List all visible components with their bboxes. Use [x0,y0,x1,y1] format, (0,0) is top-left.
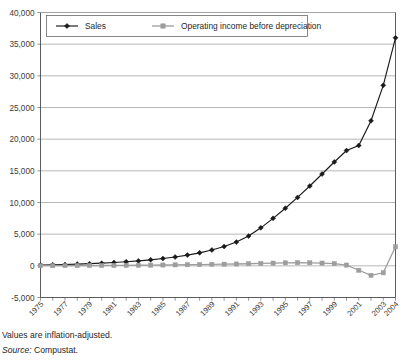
x-axis-tick-label: 2004 [382,300,400,318]
data-point-marker [344,263,348,267]
data-point-marker [51,264,55,268]
data-point-marker [222,262,226,266]
y-axis-tick-label: 25,000 [9,104,34,113]
data-point-marker [149,263,153,267]
data-point-marker [332,262,336,266]
data-point-marker [271,261,275,265]
chart-figure: 40,00035,00030,00025,00020,00015,00010,0… [0,0,417,360]
y-axis-ticks-group [37,13,40,298]
data-point-marker [124,263,128,267]
data-point-marker [112,263,116,267]
x-axis-tick-label: 1989 [198,300,216,318]
x-axis-tick-label: 1991 [223,300,241,318]
footnote-source-prefix: Source: [2,345,32,355]
data-point-marker [148,257,153,262]
legend-label: Operating income before depreciation [181,21,321,31]
legend-marker-sample [161,24,165,28]
y-axis-tick-label: 10,000 [9,199,34,208]
x-axis-tick-label: 2001 [345,300,363,318]
data-point-marker [393,245,397,249]
footnote-values: Values are inflation-adjusted. [2,330,112,341]
series-line-operating-income [41,247,396,275]
data-point-marker [136,263,140,267]
data-point-marker [369,118,374,123]
data-point-marker [234,262,238,266]
chart-legend: SalesOperating income before depreciatio… [47,16,322,37]
legend-label: Sales [85,21,106,31]
data-point-marker [210,262,214,266]
x-axis-tick-label: 1979 [76,300,94,318]
y-axis-tick-label: -5,000 [11,294,35,303]
y-axis-labels-group: 40,00035,00030,00025,00020,00015,00010,0… [9,9,34,303]
y-axis-tick-label: 40,000 [9,9,34,18]
data-point-marker [356,143,361,148]
y-axis-tick-label: 15,000 [9,167,34,176]
x-axis-tick-label: 1985 [149,300,167,318]
data-point-marker [38,264,42,268]
x-axis-ticks-group [41,298,396,301]
data-point-marker [247,262,251,266]
x-axis-tick-label: 1987 [174,300,192,318]
data-point-marker [381,271,385,275]
y-axis-tick-label: 20,000 [9,135,34,144]
data-point-marker [63,264,67,268]
x-axis-tick-label: 1997 [296,300,314,318]
data-point-marker [209,248,214,253]
data-series-group [38,35,398,277]
data-point-marker [369,273,373,277]
data-point-marker [160,256,165,261]
data-point-marker [75,264,79,268]
data-point-marker [185,263,189,267]
y-axis-tick-label: 5,000 [14,230,35,239]
data-point-marker [197,250,202,255]
x-axis-tick-label: 1977 [51,300,69,318]
footnote-source-name: Compustat. [34,345,78,355]
data-point-marker [198,262,202,266]
data-point-marker [173,263,177,267]
data-point-marker [234,240,239,245]
data-point-marker [308,261,312,265]
data-point-marker [381,83,386,88]
y-axis-tick-label: 30,000 [9,72,34,81]
series-line-sales [41,38,396,265]
data-point-marker [161,263,165,267]
gridlines-group [41,13,396,266]
x-axis-tick-label: 1999 [321,300,339,318]
data-point-marker [222,244,227,249]
data-point-marker [136,258,141,263]
data-point-marker [357,268,361,272]
data-point-marker [259,261,263,265]
x-axis-tick-label: 1995 [272,300,290,318]
footnote-source: Source: Compustat. [2,345,78,356]
x-axis-tick-label: 1993 [247,300,265,318]
data-point-marker [295,261,299,265]
line-chart: 40,00035,00030,00025,00020,00015,00010,0… [0,0,417,360]
data-point-marker [100,263,104,267]
data-point-marker [283,261,287,265]
data-point-marker [173,254,178,259]
data-point-marker [393,35,398,40]
y-axis-tick-label: 35,000 [9,40,34,49]
x-axis-tick-label: 1983 [125,300,143,318]
x-axis-labels-group: 1975197719791981198319851987198919911993… [27,300,400,318]
x-axis-tick-label: 1981 [100,300,118,318]
data-point-marker [320,261,324,265]
data-point-marker [185,253,190,258]
y-axis-tick-label: 0 [30,262,35,271]
data-point-marker [87,263,91,267]
